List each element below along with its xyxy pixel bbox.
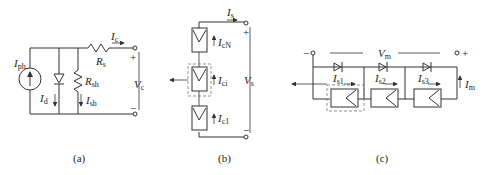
label-Im: Im <box>464 78 476 92</box>
label-Vc: Vc <box>134 78 145 92</box>
panel-a-single-cell-circuit: Iph Id Rsh Ish Rs Ic Vc + − (a) <box>13 30 145 165</box>
pv-cell-1-icon <box>192 106 207 130</box>
pv-circuit-diagram: Iph Id Rsh Ish Rs Ic Vc + − (a) <box>0 0 485 175</box>
pv-cell-i-icon <box>192 67 207 91</box>
minus-sign: − <box>243 124 249 136</box>
caption-b: (b) <box>218 152 231 165</box>
panel-c-bypass-module: Vm Is1 Is2 Is3 Im + − (c) <box>292 47 476 165</box>
caption-c: (c) <box>376 152 389 165</box>
panel-b-series-string: Is IcN Ici Ic1 Vs + − (b) <box>170 6 254 165</box>
diode-icon <box>54 74 64 84</box>
label-Is: Is <box>226 6 234 20</box>
minus-sign: − <box>303 47 309 59</box>
pv-string-2-icon <box>371 89 398 107</box>
terminal-positive <box>133 46 137 50</box>
label-Ish: Ish <box>85 94 97 108</box>
label-Id: Id <box>39 92 48 106</box>
label-Is1: Is1 <box>332 72 344 86</box>
pv-string-3-icon <box>414 89 441 107</box>
label-Is3: Is3 <box>417 72 429 86</box>
label-Rs: Rs <box>95 55 106 69</box>
label-Ic: Ic <box>110 30 119 44</box>
plus-sign: + <box>462 47 468 59</box>
label-Rsh: Rsh <box>84 75 99 89</box>
pv-string-1-icon <box>331 89 358 107</box>
plus-sign: + <box>130 51 136 63</box>
label-IcN: IcN <box>217 36 231 50</box>
pv-cell-N-icon <box>192 28 207 52</box>
label-Iph: Iph <box>13 57 26 71</box>
label-Vs: Vs <box>244 74 254 88</box>
label-Ici: Ici <box>217 74 228 88</box>
minus-sign: − <box>130 102 136 114</box>
label-Is2: Is2 <box>374 72 386 86</box>
label-Ic1: Ic1 <box>217 112 229 126</box>
caption-a: (a) <box>73 152 86 165</box>
plus-sign: + <box>243 26 249 38</box>
label-Vm: Vm <box>378 47 392 61</box>
